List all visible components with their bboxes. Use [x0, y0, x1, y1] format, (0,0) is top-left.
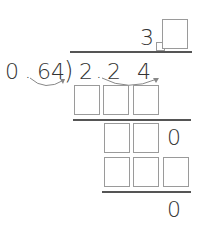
subtraction-line-2 — [102, 191, 191, 193]
row1-box-3[interactable] — [133, 85, 159, 115]
row3-box-1[interactable] — [104, 157, 130, 187]
row2-digit: 0 — [167, 126, 181, 150]
row1-box-2[interactable] — [103, 85, 129, 115]
row3-box-3[interactable] — [163, 157, 189, 187]
row1-box-1[interactable] — [74, 85, 100, 115]
row2-box-1[interactable] — [104, 123, 130, 153]
subtraction-line-1 — [73, 119, 191, 121]
decimal-shift-arrows — [0, 0, 201, 227]
row3-box-2[interactable] — [133, 157, 159, 187]
remainder-digit: 0 — [167, 198, 181, 222]
row2-box-2[interactable] — [133, 123, 159, 153]
